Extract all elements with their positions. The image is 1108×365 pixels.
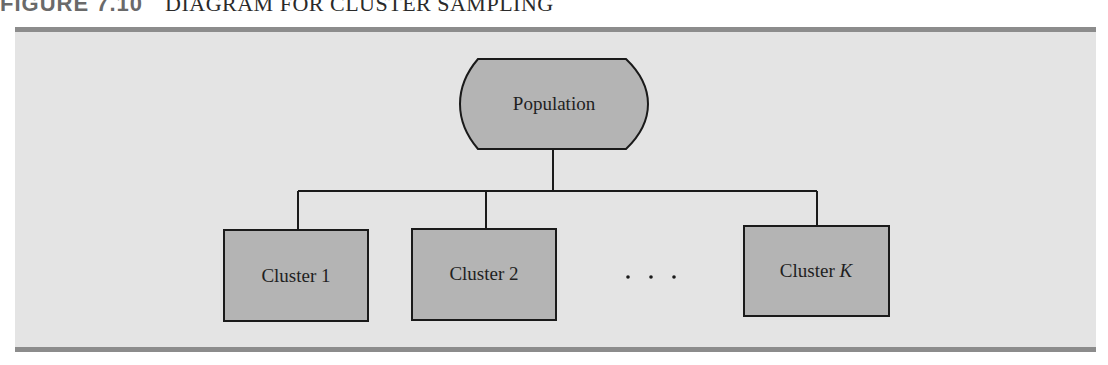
cluster-2-node: Cluster 2	[412, 229, 556, 320]
cluster-k-label-prefix: Cluster	[780, 260, 840, 281]
cluster-2-label: Cluster 2	[449, 263, 518, 284]
cluster-k-label-variable: K	[838, 260, 853, 281]
cluster-k-label: Cluster K	[780, 260, 854, 281]
connectors	[298, 150, 817, 230]
population-node: Population	[460, 59, 648, 149]
ellipsis	[626, 275, 676, 279]
cluster-sampling-diagram: Population Cluster 1 Cluster 2 Cluster K	[0, 0, 1108, 365]
cluster-1-node: Cluster 1	[224, 230, 368, 321]
population-label: Population	[513, 93, 596, 114]
cluster-k-node: Cluster K	[744, 226, 889, 316]
cluster-1-label: Cluster 1	[261, 265, 330, 286]
